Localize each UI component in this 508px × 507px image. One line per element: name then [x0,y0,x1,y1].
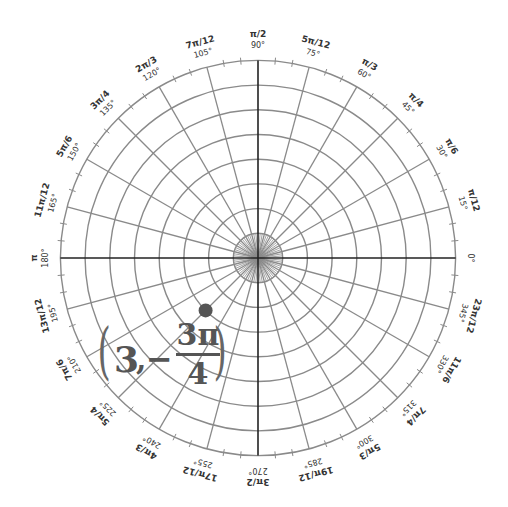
radian-label: π/2 [250,29,267,39]
polar-graph: 0°15°π/1230°π/645°π/460°π/375°5π/1290°π/… [0,0,508,507]
rim-tick [451,275,458,276]
degree-label: 90° [251,41,265,50]
rim-tick [93,143,99,147]
angle-label-345: 345°23π/12 [454,295,483,335]
angle-label-135: 135°3π/4 [88,88,119,119]
polar-grid-svg: 0°15°π/1230°π/645°π/460°π/375°5π/1290°π/… [0,0,508,507]
radian-label: π [29,254,39,261]
rim-tick [223,60,224,67]
rim-tick [60,223,67,224]
plotted-point [199,303,213,317]
degree-label: 75° [305,47,321,59]
angle-label-240: 240°4π/3 [134,432,164,462]
angle-label-300: 300°5π/3 [352,432,382,462]
point-coordinate-label: ( 3 , − 3π 4 ) [104,326,234,396]
angle-label-15: 15°π/12 [456,188,482,216]
angle-label-255: 255°17π/12 [182,454,222,483]
rim-tick [292,449,293,456]
angle-label-30: 30°π/6 [434,136,461,161]
rim-tick [369,93,373,99]
coordinate-comma: , [136,342,146,377]
angle-label-0: 0° [466,253,475,262]
angle-label-90: 90°π/2 [250,29,267,50]
rim-tick [240,58,241,65]
rim-tick [449,223,456,224]
degree-label: 15° [457,195,469,211]
angle-label-165: 165°11π/12 [33,182,62,222]
rim-tick [369,417,373,423]
radian-label: 3π/2 [247,477,270,487]
angle-label-330: 330°11π/6 [430,349,463,385]
rim-tick [58,240,65,241]
rim-tick [240,451,241,458]
angle-label-210: 210°7π/6 [54,352,84,382]
angle-label-285: 285°19π/12 [295,454,335,483]
angle-label-60: 60°π/3 [355,56,380,83]
angle-label-75: 75°5π/12 [298,33,332,61]
rim-tick [417,369,423,373]
rim-tick [60,292,67,293]
angle-label-120: 120°2π/3 [134,54,164,84]
angle-label-180: 180°π [29,248,50,267]
angle-label-45: 45°π/4 [399,90,426,117]
rim-tick [449,292,456,293]
close-paren: ) [213,320,226,382]
rim-tick [275,451,276,458]
coordinate-minus: − [146,340,173,378]
rim-tick [275,58,276,65]
rim-tick [292,60,293,67]
degree-label: 180° [41,248,50,267]
angle-label-225: 225°5π/4 [88,397,119,428]
degree-label: 270° [248,466,267,475]
rim-tick [143,417,147,423]
angle-label-315: 315°7π/4 [397,397,428,428]
open-paren: ( [97,320,110,382]
degree-label: 0° [466,253,475,262]
angle-label-105: 105°7π/12 [185,33,219,61]
radian-label: 5π/12 [300,33,331,50]
rim-tick [417,143,423,147]
rim-tick [58,275,65,276]
rim-tick [223,449,224,456]
angle-label-150: 150°5π/6 [54,134,84,164]
angle-label-270: 270°3π/2 [247,466,270,487]
rim-tick [143,93,147,99]
rim-tick [451,240,458,241]
angle-label-195: 195°13π/12 [33,295,62,335]
